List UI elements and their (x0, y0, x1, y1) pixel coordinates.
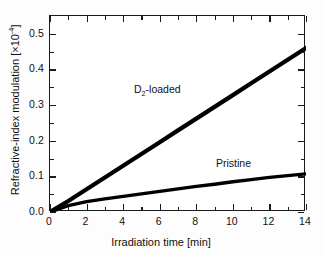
x-tick-minor (178, 207, 179, 211)
y-tick-major (50, 69, 56, 70)
x-tick-label: 0 (46, 215, 52, 227)
y-tick-major-right (298, 141, 304, 142)
y-tick-major-right (298, 176, 304, 177)
x-tick-minor-top (288, 16, 289, 20)
y-tick-minor-right (301, 123, 305, 124)
y-tick-minor (50, 123, 54, 124)
x-axis-title: Irradiation time [min] (0, 236, 322, 248)
x-tick-minor-top (251, 16, 252, 20)
x-tick-minor (105, 207, 106, 211)
x-tick-label: 14 (299, 215, 311, 227)
y-tick-minor (50, 52, 54, 53)
x-tick-label: 4 (119, 215, 125, 227)
y-tick-major (50, 212, 56, 213)
x-tick-major (233, 204, 234, 210)
x-tick-minor-top (215, 16, 216, 20)
plot-area (50, 16, 304, 210)
y-tick-major-right (298, 212, 304, 213)
y-tick-minor (50, 87, 54, 88)
x-tick-label: 10 (226, 215, 238, 227)
y-axis-title: Refractive-index modulation [×10-4] (7, 10, 21, 210)
x-tick-minor (251, 207, 252, 211)
y-tick-major-right (298, 69, 304, 70)
x-tick-minor (141, 207, 142, 211)
x-tick-label: 2 (83, 215, 89, 227)
x-tick-minor (288, 207, 289, 211)
x-tick-minor (68, 207, 69, 211)
x-tick-major-top (123, 16, 124, 22)
y-tick-major (50, 141, 56, 142)
x-tick-label: 12 (262, 215, 274, 227)
x-tick-major (306, 204, 307, 210)
y-tick-minor-right (301, 194, 305, 195)
y-tick-minor-right (301, 87, 305, 88)
y-tick-major-right (298, 34, 304, 35)
y-tick-major (50, 105, 56, 106)
x-tick-major-top (196, 16, 197, 22)
y-tick-major (50, 34, 56, 35)
y-tick-major (50, 176, 56, 177)
x-tick-major (160, 204, 161, 210)
x-tick-label: 6 (156, 215, 162, 227)
chart-figure: 02468101214 0.00.10.20.30.40.5 Irradiati… (0, 0, 322, 256)
x-tick-major (123, 204, 124, 210)
x-tick-minor (215, 207, 216, 211)
x-tick-major-top (160, 16, 161, 22)
y-tick-minor (50, 194, 54, 195)
x-tick-major (50, 204, 51, 210)
series-label-d2-loaded: D2-loaded (134, 83, 181, 98)
y-tick-minor-right (301, 159, 305, 160)
x-tick-major (269, 204, 270, 210)
x-tick-minor-top (68, 16, 69, 20)
x-tick-label: 8 (192, 215, 198, 227)
x-tick-major-top (50, 16, 51, 22)
y-tick-minor (50, 159, 54, 160)
x-tick-major-top (233, 16, 234, 22)
x-tick-major-top (306, 16, 307, 22)
x-tick-major (87, 204, 88, 210)
y-tick-major-right (298, 105, 304, 106)
x-tick-minor-top (105, 16, 106, 20)
x-tick-major (196, 204, 197, 210)
y-tick-minor-right (301, 52, 305, 53)
plot-frame (49, 15, 305, 211)
x-tick-minor-top (178, 16, 179, 20)
x-tick-minor-top (141, 16, 142, 20)
series-layer (50, 16, 306, 212)
x-tick-major-top (269, 16, 270, 22)
series-label-pristine: Pristine (216, 157, 251, 169)
x-tick-major-top (87, 16, 88, 22)
